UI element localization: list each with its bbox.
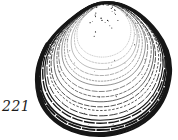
clam-shell-illustration: [0, 0, 178, 140]
figure-plate: 221: [0, 0, 178, 140]
figure-number-label: 221: [2, 99, 30, 113]
shell-art-group: [36, 2, 171, 136]
